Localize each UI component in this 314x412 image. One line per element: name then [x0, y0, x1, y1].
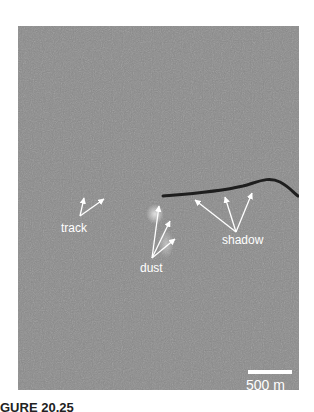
terrain-texture	[18, 26, 299, 390]
scale-bar	[248, 370, 292, 374]
figure-caption: GURE 20.25	[0, 401, 74, 412]
dust-label: dust	[140, 262, 163, 274]
scale-bar-label: 500 m	[246, 378, 285, 390]
martian-surface-image: track dust shadow 500 m	[18, 26, 299, 390]
shadow-label: shadow	[222, 234, 263, 246]
dust-plume	[146, 204, 164, 224]
track-label: track	[61, 222, 87, 234]
